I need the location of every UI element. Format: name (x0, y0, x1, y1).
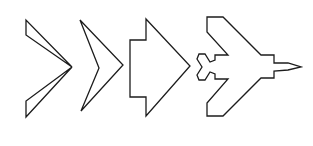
planform-diagram (0, 0, 313, 146)
aircraft-shape (197, 17, 301, 116)
diagram-svg (0, 0, 313, 146)
aircraft-outline (197, 17, 301, 116)
split-delta-lower-panel (26, 67, 72, 117)
chevron-outline (80, 20, 123, 111)
arrow-delta-shape (130, 19, 190, 116)
chevron-shape (80, 20, 123, 111)
arrow-delta-outline (130, 19, 190, 116)
split-delta-shape (26, 20, 72, 117)
split-delta-upper-panel (26, 20, 72, 67)
